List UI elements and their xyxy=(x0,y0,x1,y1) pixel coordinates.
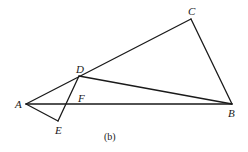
segments xyxy=(26,19,232,121)
label-a: A xyxy=(14,98,22,110)
segment-ac xyxy=(26,19,191,104)
segment-cb xyxy=(191,19,232,104)
label-f: F xyxy=(77,92,85,104)
label-e: E xyxy=(54,124,62,136)
segment-db xyxy=(79,76,232,104)
label-b: B xyxy=(228,107,235,119)
label-d: D xyxy=(75,63,84,75)
geometry-diagram: A B C D E F (b) xyxy=(0,0,248,152)
segment-ae xyxy=(26,104,58,121)
label-c: C xyxy=(188,5,196,17)
vertex-labels: A B C D E F xyxy=(14,5,235,136)
figure-caption: (b) xyxy=(104,131,116,143)
